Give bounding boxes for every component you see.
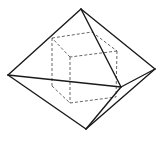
octahedron-with-inscribed-cube-diagram [0,0,165,143]
cube-edge-bbl-bfl [52,86,70,103]
octahedron-edge-top-right [81,9,155,69]
octahedron-edge-top-front [81,9,121,87]
octahedron-edge-right-bottom [86,69,155,129]
octahedron-edge-top-left [8,9,81,75]
cube-edge-tfr-tfl [70,51,117,57]
inscribed-cube-hidden-edges [52,32,117,103]
octahedron-edge-front-bottom [86,87,121,129]
octahedron-edges [8,9,155,129]
octahedron-edge-left-bottom [8,75,86,129]
cube-edge-tbl-tbr [52,32,92,38]
octahedron-edge-left-front [8,75,121,87]
cube-edge-tfl-tbl [52,38,70,57]
cube-edge-tfr-bfr [116,51,117,97]
